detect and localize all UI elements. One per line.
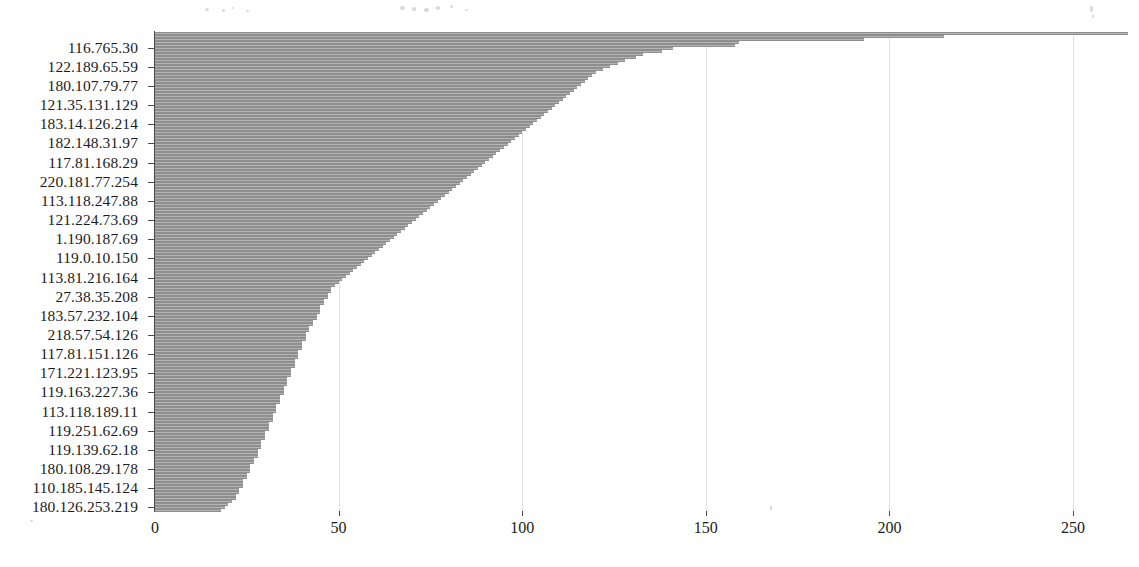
y-axis-label: 113.81.216.164: [0, 270, 146, 286]
y-axis-label: 119.163.227.36: [0, 384, 146, 400]
y-axis-label: 110.185.145.124: [0, 480, 146, 496]
y-axis-label: 117.81.151.126: [0, 346, 146, 362]
y-axis-label: 180.108.29.178: [0, 461, 146, 477]
x-axis-label: 0: [151, 519, 159, 537]
y-tick: [148, 297, 154, 298]
y-axis-label: 183.57.232.104: [0, 308, 146, 324]
x-axis-label: 250: [1061, 519, 1085, 537]
y-axis-label: 218.57.54.126: [0, 327, 146, 343]
x-tick: [706, 511, 707, 516]
y-axis-label: 117.81.168.29: [0, 155, 146, 171]
y-tick: [148, 182, 154, 183]
y-axis-label: 113.118.189.11: [0, 404, 146, 420]
y-tick: [148, 201, 154, 202]
y-axis-line: [154, 31, 155, 512]
y-tick: [148, 316, 154, 317]
x-axis-label: 150: [694, 519, 718, 537]
y-tick: [148, 220, 154, 221]
y-axis-label: 113.118.247.88: [0, 193, 146, 209]
y-axis-label: 119.139.62.18: [0, 442, 146, 458]
y-axis-label: 182.148.31.97: [0, 135, 146, 151]
y-axis-label: 119.251.62.69: [0, 423, 146, 439]
y-axis-label: 119.0.10.150: [0, 250, 146, 266]
y-tick: [148, 86, 154, 87]
y-tick: [148, 431, 154, 432]
y-axis-label: 27.38.35.208: [0, 289, 146, 305]
y-tick: [148, 143, 154, 144]
horizontal-bar-chart: 116.765.30122.189.65.59180.107.79.77121.…: [0, 0, 1139, 567]
y-axis-label: 171.221.123.95: [0, 365, 146, 381]
y-axis-label: 121.224.73.69: [0, 212, 146, 228]
y-tick: [148, 450, 154, 451]
y-tick: [148, 507, 154, 508]
y-axis-label: 1.190.187.69: [0, 231, 146, 247]
x-axis: 050100150200250: [0, 511, 1139, 551]
y-tick: [148, 412, 154, 413]
x-tick: [339, 511, 340, 516]
x-tick: [889, 511, 890, 516]
y-axis-labels: 116.765.30122.189.65.59180.107.79.77121.…: [0, 0, 146, 567]
y-tick: [148, 354, 154, 355]
y-tick: [148, 239, 154, 240]
y-axis-label: 183.14.126.214: [0, 116, 146, 132]
x-tick: [1073, 511, 1074, 516]
y-tick: [148, 258, 154, 259]
y-tick: [148, 373, 154, 374]
y-tick: [148, 124, 154, 125]
y-tick: [148, 67, 154, 68]
x-tick: [522, 511, 523, 516]
y-tick: [148, 392, 154, 393]
y-tick: [148, 105, 154, 106]
y-axis-label: 122.189.65.59: [0, 59, 146, 75]
x-axis-label: 100: [510, 519, 534, 537]
y-tick: [148, 469, 154, 470]
x-axis-label: 200: [877, 519, 901, 537]
y-tick: [148, 278, 154, 279]
y-axis-label: 116.765.30: [0, 40, 146, 56]
y-tick: [148, 163, 154, 164]
x-axis-label: 50: [331, 519, 347, 537]
y-tick: [148, 48, 154, 49]
y-axis-label: 121.35.131.129: [0, 97, 146, 113]
y-tick: [148, 335, 154, 336]
y-axis-label: 180.107.79.77: [0, 78, 146, 94]
y-axis-label: 220.181.77.254: [0, 174, 146, 190]
y-tick: [148, 488, 154, 489]
plot-area: [155, 32, 1139, 511]
bar-series: [155, 32, 1139, 511]
